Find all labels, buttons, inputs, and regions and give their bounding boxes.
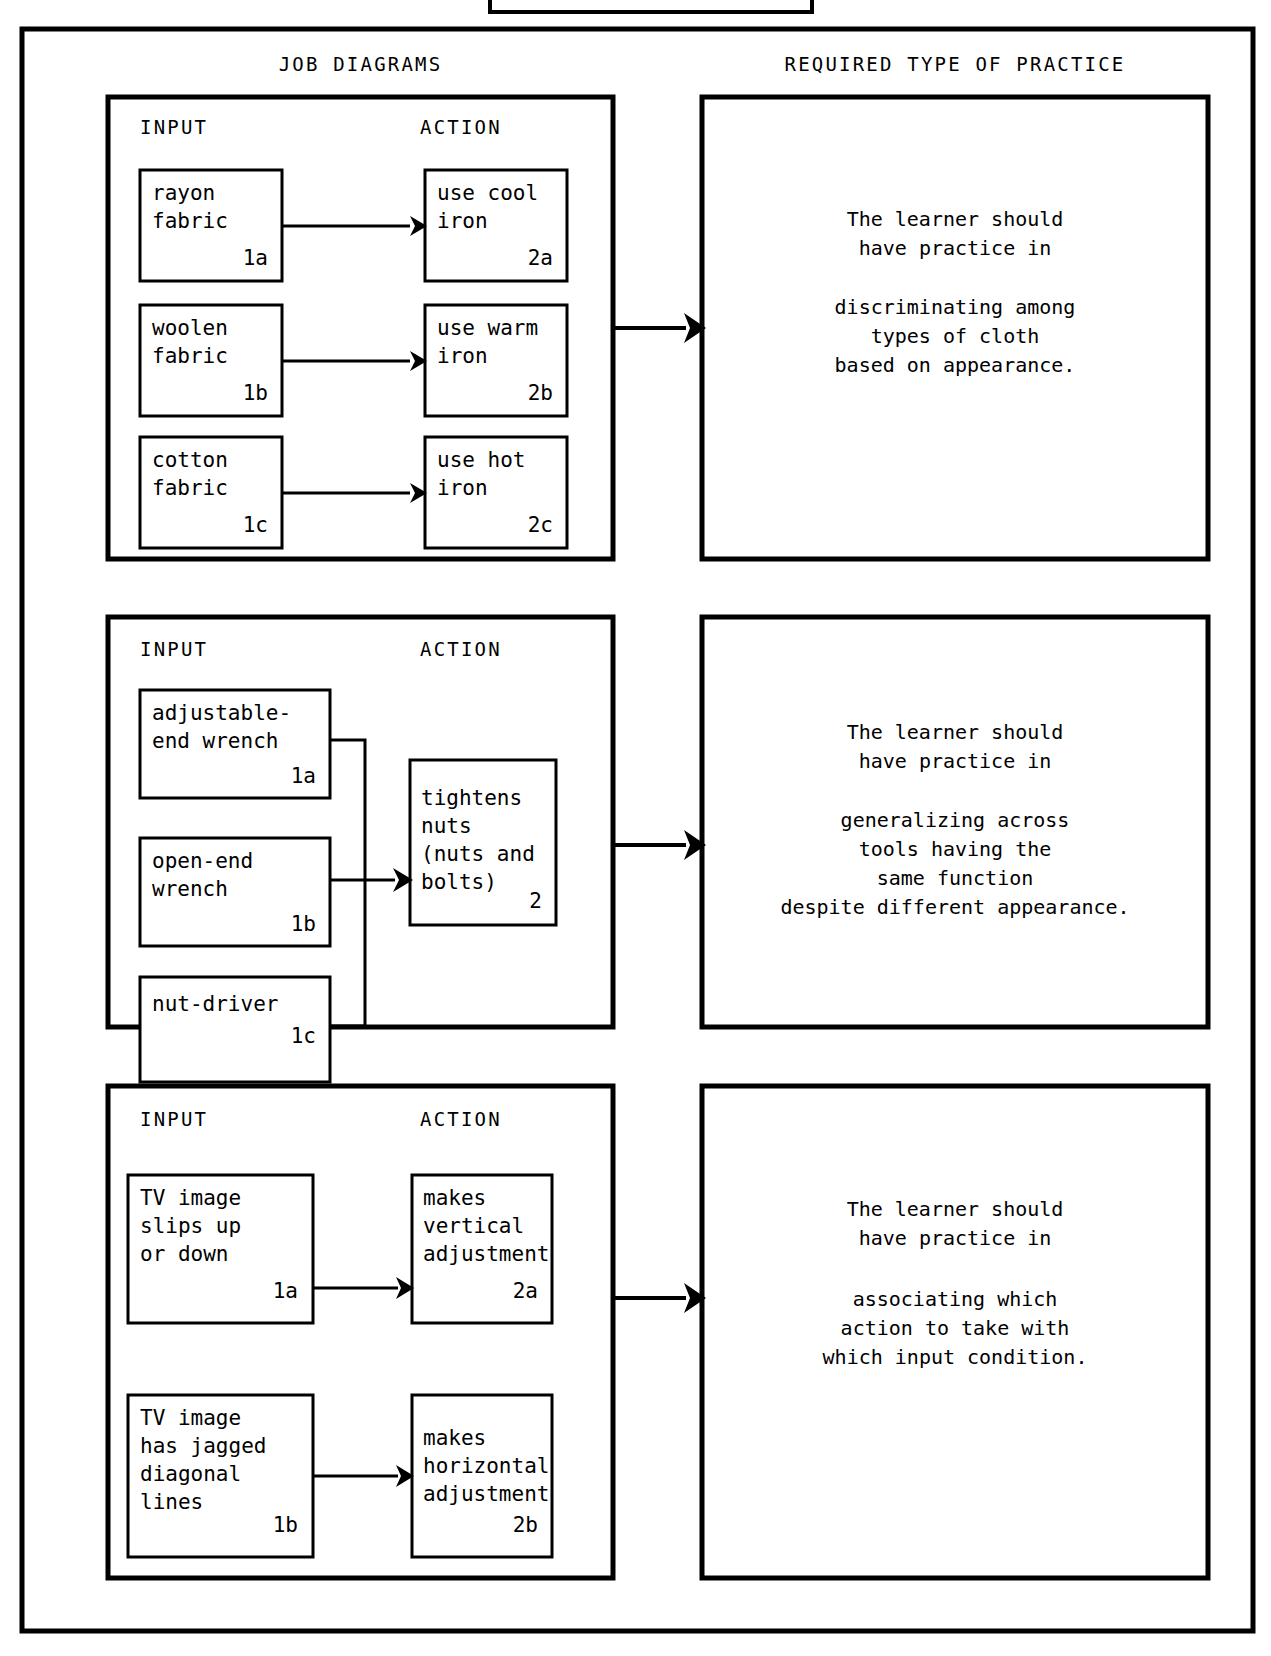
practice-panel-3-body: associating which action to take with wh… [702,1285,1208,1372]
input-box-2-1a-num: 1a [140,763,316,790]
practice-panel-1-lead: The learner should have practice in [702,205,1208,263]
action-box-3-2a-text: makes vertical adjustment [423,1185,549,1269]
action-box-3-2a-num: 2a [412,1278,538,1305]
practice-panel-2-body: generalizing across tools having the sam… [702,806,1208,922]
input-box-1c-text: cotton fabric [152,447,228,503]
action-box-2-2-num: 2 [410,888,542,915]
action-box-2b-text: use warm iron [437,315,538,371]
input-box-2-1c-num: 1c [140,1023,316,1050]
bus-line-outer [330,740,365,1026]
practice-panel-2-lead: The learner should have practice in [702,718,1208,776]
action-box-2b-num: 2b [425,380,553,407]
diagram-page: JOB DIAGRAMS REQUIRED TYPE OF PRACTICE I… [0,0,1271,1656]
input-box-1a-text: rayon fabric [152,180,228,236]
action-box-3-2b-text: makes horizontal adjustment [423,1425,549,1509]
practice-panel-1-body: discriminating among types of cloth base… [702,293,1208,380]
column-header-required-practice: REQUIRED TYPE OF PRACTICE [702,52,1208,77]
input-box-3-1a-text: TV image slips up or down [140,1185,241,1269]
section1-action-label: ACTION [420,115,502,140]
input-box-1b-text: woolen fabric [152,315,228,371]
input-box-1c-num: 1c [140,512,268,539]
action-box-3-2b-num: 2b [412,1512,538,1539]
input-box-2-1a-text: adjustable- end wrench [152,700,291,756]
section3-input-label: INPUT [140,1107,208,1132]
section2-action-label: ACTION [420,637,502,662]
practice-panel-3-lead: The learner should have practice in [702,1195,1208,1253]
section1-input-label: INPUT [140,115,208,140]
input-box-3-1b-num: 1b [128,1512,298,1539]
input-box-3-1b-text: TV image has jagged diagonal lines [140,1405,266,1517]
input-box-2-1c-text: nut-driver [152,991,278,1019]
action-box-2c-text: use hot iron [437,447,526,503]
input-box-1a-num: 1a [140,245,268,272]
action-box-2c-num: 2c [425,512,553,539]
top-partial-box [490,0,812,12]
section2-input-label: INPUT [140,637,208,662]
input-box-2-1b-num: 1b [140,911,316,938]
action-box-2a-text: use cool iron [437,180,538,236]
input-box-2-1b-text: open-end wrench [152,848,253,904]
section3-action-label: ACTION [420,1107,502,1132]
input-box-3-1a-num: 1a [128,1278,298,1305]
action-box-2-2-text: tightens nuts (nuts and bolts) [421,785,535,897]
action-box-2a-num: 2a [425,245,553,272]
input-box-1b-num: 1b [140,380,268,407]
column-header-job-diagrams: JOB DIAGRAMS [108,52,613,77]
